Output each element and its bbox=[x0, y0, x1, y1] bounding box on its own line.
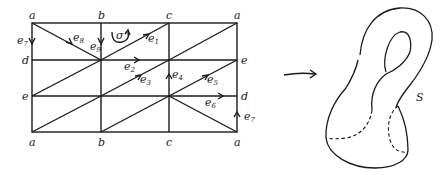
vertex-label-top-c: c bbox=[166, 9, 172, 22]
simplex-label-sigma: σ bbox=[116, 29, 124, 42]
klein-bottle-hidden-tube-left bbox=[326, 110, 372, 139]
edge-label-e7-left: e7 bbox=[17, 34, 29, 48]
edge-label-e7-right: e7 bbox=[244, 110, 256, 124]
diagonal-bottom-mid bbox=[101, 96, 169, 132]
surface-label-s: S bbox=[416, 91, 424, 104]
edge-label-e4: e4 bbox=[172, 68, 183, 82]
vertex-label-left-e: e bbox=[22, 90, 29, 103]
klein-bottle-hidden-tube-right bbox=[388, 106, 408, 152]
edge-label-e2: e2 bbox=[124, 60, 136, 74]
klein-bottle-triangulation-diagram: a b c a a b c a d e e d e7 e8 e9 σ e1 e2… bbox=[0, 0, 447, 175]
klein-bottle-outer-contour bbox=[326, 8, 432, 168]
diagonal-bottom-left bbox=[32, 96, 101, 132]
vertex-label-bottom-a2: a bbox=[234, 136, 241, 149]
mapping-arrow-icon bbox=[284, 70, 316, 78]
vertex-label-right-e: e bbox=[241, 54, 248, 67]
vertex-label-bottom-a1: a bbox=[29, 136, 36, 149]
vertex-label-left-d: d bbox=[22, 54, 29, 67]
vertex-label-top-b: b bbox=[98, 9, 105, 22]
diagonal-top-right bbox=[169, 23, 237, 60]
edge-label-e5: e5 bbox=[207, 73, 219, 87]
klein-bottle-surface: S bbox=[326, 8, 432, 168]
edge-label-e1: e1 bbox=[148, 32, 159, 46]
diagonal-mid-left bbox=[32, 60, 101, 96]
vertex-label-bottom-c: c bbox=[166, 136, 172, 149]
diagonal-bottom-right bbox=[169, 96, 237, 132]
vertex-label-right-d: d bbox=[241, 90, 248, 103]
edge-label-e8: e8 bbox=[73, 31, 85, 45]
edge-label-e6: e6 bbox=[205, 96, 217, 110]
diagonal-e3 bbox=[101, 60, 169, 96]
vertex-label-bottom-b: b bbox=[98, 136, 105, 149]
vertex-label-top-a2: a bbox=[234, 9, 241, 22]
edge-label-e3: e3 bbox=[140, 73, 152, 87]
klein-bottle-inner-loop bbox=[372, 32, 411, 110]
vertex-label-top-a1: a bbox=[29, 9, 36, 22]
